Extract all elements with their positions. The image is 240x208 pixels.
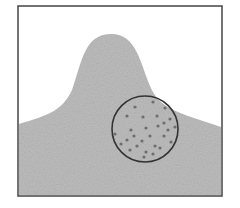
dot bbox=[132, 134, 135, 137]
dot bbox=[173, 125, 176, 128]
dot bbox=[141, 115, 144, 118]
dot bbox=[155, 114, 158, 117]
dot bbox=[144, 150, 147, 153]
dot bbox=[142, 155, 145, 158]
dot bbox=[129, 128, 132, 131]
dot bbox=[148, 134, 151, 137]
dot bbox=[119, 142, 122, 145]
dot bbox=[113, 132, 116, 135]
diagram-figure bbox=[0, 0, 240, 208]
dot bbox=[151, 100, 154, 103]
dot bbox=[163, 106, 166, 109]
dot bbox=[144, 126, 147, 129]
dot bbox=[169, 140, 172, 143]
dot bbox=[162, 134, 165, 137]
dot bbox=[153, 144, 156, 147]
dot bbox=[156, 124, 159, 127]
dot bbox=[135, 144, 138, 147]
dot bbox=[151, 152, 154, 155]
dot bbox=[140, 139, 143, 142]
dot bbox=[158, 146, 161, 149]
dot bbox=[128, 148, 131, 151]
dot bbox=[125, 114, 128, 117]
dot bbox=[162, 121, 165, 124]
dot bbox=[168, 117, 171, 120]
dot bbox=[125, 138, 128, 141]
dot bbox=[133, 105, 136, 108]
dot bbox=[166, 128, 169, 131]
mound-shape bbox=[19, 34, 221, 195]
